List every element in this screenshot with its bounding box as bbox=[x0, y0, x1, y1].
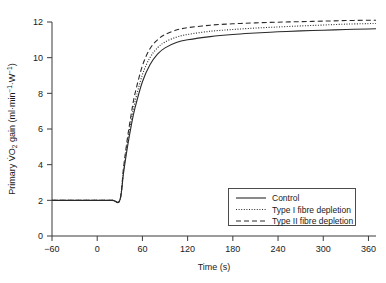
y-axis-ticks bbox=[47, 22, 52, 236]
legend-label-1: Control bbox=[272, 193, 300, 203]
vo2-gain-line-chart: 024681012 −60060120180240300360 Primary … bbox=[0, 0, 386, 283]
y-tick-label: 10 bbox=[33, 53, 43, 63]
x-tick-label: −60 bbox=[44, 244, 59, 254]
y-tick-label: 4 bbox=[38, 160, 43, 170]
y-tick-label: 0 bbox=[38, 231, 43, 241]
x-tick-label: 300 bbox=[316, 244, 331, 254]
x-axis-tick-labels: −60060120180240300360 bbox=[44, 244, 376, 254]
y-axis-title: Primary V̇O2 gain (ml·min−1·W−1) bbox=[6, 63, 19, 195]
y-tick-label: 6 bbox=[38, 124, 43, 134]
data-series-group bbox=[52, 20, 376, 203]
y-tick-label: 8 bbox=[38, 89, 43, 99]
x-tick-label: 180 bbox=[225, 244, 240, 254]
series-line-type-ii-fibre-depletion bbox=[52, 20, 376, 203]
series-line-control bbox=[52, 29, 376, 203]
y-tick-label: 2 bbox=[38, 196, 43, 206]
chart-figure: 024681012 −60060120180240300360 Primary … bbox=[0, 0, 386, 283]
x-axis-ticks bbox=[52, 236, 368, 241]
x-tick-label: 360 bbox=[361, 244, 376, 254]
series-line-type-i-fibre-depletion bbox=[52, 23, 376, 202]
legend-label-2: Type I fibre depletion bbox=[272, 205, 351, 215]
x-tick-label: 60 bbox=[137, 244, 147, 254]
y-axis-tick-labels: 024681012 bbox=[33, 17, 43, 241]
x-tick-label: 0 bbox=[95, 244, 100, 254]
x-tick-label: 120 bbox=[180, 244, 195, 254]
legend-label-3: Type II fibre depletion bbox=[272, 216, 354, 226]
y-tick-label: 12 bbox=[33, 17, 43, 27]
x-axis-title: Time (s) bbox=[198, 262, 231, 272]
x-tick-label: 240 bbox=[271, 244, 286, 254]
chart-legend: ControlType I fibre depletionType II fib… bbox=[229, 189, 356, 227]
